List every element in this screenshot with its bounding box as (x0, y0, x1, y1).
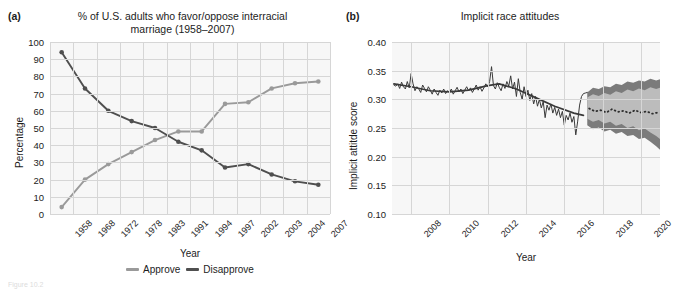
gridline-vertical (488, 42, 489, 214)
data-point (176, 129, 181, 134)
y-tick-label: 0.15 (340, 180, 390, 191)
x-tick-label: 1972 (119, 218, 140, 239)
gridline-vertical (213, 42, 214, 214)
y-tick-label: 90 (0, 54, 48, 65)
data-point (153, 138, 158, 143)
panel-b-plot-area (392, 42, 660, 214)
y-tick-label: 0.10 (340, 209, 390, 220)
data-point (316, 79, 321, 84)
gridline-vertical (237, 42, 238, 214)
gridline-vertical (330, 42, 331, 214)
legend-swatch-disapprove (186, 268, 199, 271)
y-tick-label: 60 (0, 105, 48, 116)
data-point (223, 102, 228, 107)
legend-label: Approve (143, 264, 180, 275)
panel-a-letter: (a) (8, 10, 21, 22)
gridline-vertical (449, 42, 450, 214)
data-point (59, 50, 64, 55)
y-tick-label: 50 (0, 123, 48, 134)
gridline-vertical (603, 42, 604, 214)
y-tick-label: 0 (0, 209, 48, 220)
gridline-horizontal (392, 214, 660, 215)
y-tick-label: 0.40 (340, 37, 390, 48)
panel-a-legend: ApproveDisapprove (50, 264, 330, 275)
panel-b-letter: (b) (346, 10, 359, 22)
y-tick-label: 0.35 (340, 65, 390, 76)
x-tick-label: 2014 (537, 218, 558, 239)
gridline-horizontal (50, 214, 330, 215)
data-point (246, 100, 251, 105)
x-tick-label: 2002 (259, 218, 280, 239)
x-tick-label: 1978 (143, 218, 164, 239)
gridline-vertical (73, 42, 74, 214)
gridline-vertical (411, 42, 412, 214)
gridline-vertical (283, 42, 284, 214)
x-tick-label: 1958 (73, 218, 94, 239)
x-tick-label: 2020 (652, 218, 673, 239)
data-point (83, 86, 88, 91)
panel-b-title: Implicit race attitudes (370, 10, 650, 23)
data-point (223, 165, 228, 170)
x-tick-label: 2010 (460, 218, 481, 239)
gridline-vertical (260, 42, 261, 214)
figure-caption-fragment: Figure 10.2 (8, 281, 158, 289)
panel-b-y-axis-label: Implicit attitde score (348, 102, 359, 190)
panel-b: (b) Implicit race attitudes Implicit att… (340, 0, 675, 290)
data-point (129, 150, 134, 155)
y-tick-label: 0.30 (340, 94, 390, 105)
data-point (269, 86, 274, 91)
x-tick-label: 1997 (236, 218, 257, 239)
y-tick-label: 80 (0, 71, 48, 82)
gridline-vertical (143, 42, 144, 214)
gridline-vertical (97, 42, 98, 214)
x-tick-label: 1994 (213, 218, 234, 239)
legend-swatch-approve (126, 268, 139, 271)
x-tick-label: 2008 (422, 218, 443, 239)
series-line-observed (394, 67, 587, 135)
y-tick-label: 0.25 (340, 123, 390, 134)
x-tick-label: 1983 (166, 218, 187, 239)
y-tick-label: 30 (0, 157, 48, 168)
gridline-vertical (167, 42, 168, 214)
panel-a-title-line2: marriage (1958–2007) (55, 23, 310, 36)
data-point (199, 148, 204, 153)
gridline-vertical (564, 42, 565, 214)
x-tick-label: 2004 (306, 218, 327, 239)
y-tick-label: 70 (0, 88, 48, 99)
data-point (293, 81, 298, 86)
x-tick-label: 1968 (96, 218, 117, 239)
data-point (316, 182, 321, 187)
data-point (59, 205, 64, 210)
x-tick-label: 2018 (613, 218, 634, 239)
panel-b-x-axis-label: Year (392, 252, 660, 263)
gridline-vertical (120, 42, 121, 214)
data-point (269, 172, 274, 177)
y-tick-label: 0.20 (340, 151, 390, 162)
x-tick-label: 2012 (499, 218, 520, 239)
data-point (176, 139, 181, 144)
legend-item: Disapprove (186, 264, 254, 275)
y-tick-label: 10 (0, 191, 48, 202)
y-tick-label: 40 (0, 140, 48, 151)
gridline-vertical (526, 42, 527, 214)
gridline-vertical (190, 42, 191, 214)
gridline-vertical (50, 42, 51, 214)
gridline-vertical (641, 42, 642, 214)
panel-a-plot-area (50, 42, 330, 214)
panel-a-x-axis-label: Year (50, 248, 330, 259)
x-tick-label: 2003 (283, 218, 304, 239)
y-tick-label: 100 (0, 37, 48, 48)
panel-a-title-line1: % of U.S. adults who favor/oppose interr… (55, 10, 310, 23)
figure-container: (a) % of U.S. adults who favor/oppose in… (0, 0, 675, 290)
panel-a: (a) % of U.S. adults who favor/oppose in… (0, 0, 340, 290)
legend-item: Approve (126, 264, 180, 275)
data-point (129, 119, 134, 124)
data-point (199, 129, 204, 134)
x-tick-label: 1991 (189, 218, 210, 239)
gridline-vertical (307, 42, 308, 214)
legend-label: Disapprove (203, 264, 254, 275)
x-tick-label: 2016 (575, 218, 596, 239)
y-tick-label: 20 (0, 174, 48, 185)
